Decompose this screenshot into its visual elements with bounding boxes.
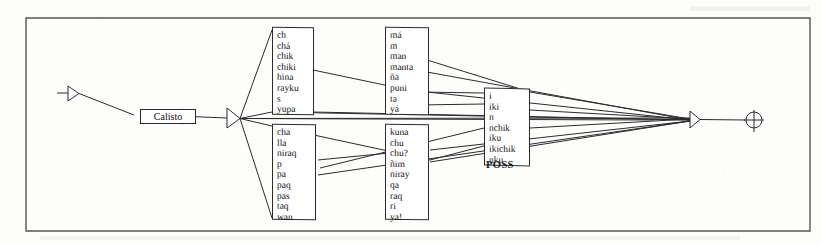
suffix-item: yá [390,104,425,115]
suffix-item: ch [277,30,310,41]
diagram-canvas: Calisto chcháchikchikihinaraykusyupa mám… [0,0,822,244]
suffix-item: cha [277,127,312,138]
suffix-item: pa [277,169,312,180]
suffix-item: iki [489,101,526,112]
suffix-item: chiki [277,62,310,73]
suffix-item: kuna [390,127,425,138]
suffix-item: má [390,30,425,41]
suffix-item: niraq [277,148,312,159]
suffix-item: raq [390,190,425,201]
suffix-item: chu? [390,148,425,159]
suffix-box-lower-mid[interactable]: kunachuchu?ñimnirayqaraqriya! [385,124,429,220]
suffix-item: ya! [390,212,425,223]
suffix-item: chá [277,40,310,51]
suffix-box-lower-left[interactable]: challaniraqppapaqpastaqwan [272,124,316,220]
suffix-item: ta [390,93,425,104]
suffix-item: p [277,159,312,170]
suffix-item: ñim [390,159,425,170]
suffix-item: manta [390,62,425,73]
suffix-item: ri [390,201,425,212]
suffix-item: taq [277,201,312,212]
suffix-item: n [489,112,526,123]
suffix-item: hina [277,72,310,83]
suffix-item: chu [390,137,425,148]
suffix-item: ikichik [489,144,526,155]
suffix-box-upper-left[interactable]: chcháchikchikihinaraykusyupa [272,27,314,116]
poss-caption: POSS [486,159,514,170]
calisto-label: Calisto [140,109,196,124]
suffix-box-upper-mid[interactable]: mámmanmantañapunitayá [385,27,429,115]
suffix-item: s [277,93,310,104]
suffix-item: iku [489,133,526,144]
suffix-item: niray [390,169,425,180]
suffix-item: ña [390,72,425,83]
suffix-item: yupa [277,104,310,115]
suffix-item: nchik [489,122,526,133]
suffix-item: pas [277,190,312,201]
suffix-item: chik [277,51,310,62]
suffix-item: lla [277,137,312,148]
suffix-item: i [489,91,526,102]
suffix-item: qa [390,180,425,191]
suffix-item: rayku [277,83,310,94]
suffix-item: wan [277,212,312,223]
suffix-item: m [390,40,425,51]
suffix-box-possessive[interactable]: iikinnchikikuikichiknku [484,88,530,167]
source-node-calisto[interactable]: Calisto [140,109,200,125]
suffix-item: paq [277,180,312,191]
suffix-item: puni [390,83,425,94]
suffix-item: man [390,51,425,62]
